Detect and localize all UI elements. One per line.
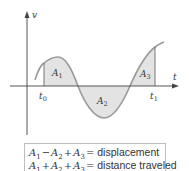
term-a3: A3 bbox=[73, 147, 85, 161]
t0-label: t0 bbox=[39, 91, 47, 103]
equals-sign: = bbox=[85, 160, 95, 171]
displacement-formula: A1 − A2 + A3 = displacement bbox=[29, 146, 165, 159]
distance-formula: A1 + A2 + A3 = distance traveled bbox=[29, 159, 165, 171]
term-a1: A1 bbox=[29, 160, 41, 171]
t1-label: t1 bbox=[150, 91, 158, 103]
term-a2: A2 bbox=[51, 147, 63, 161]
operator: + bbox=[41, 160, 51, 171]
displacement-label: displacement bbox=[97, 146, 159, 158]
operator: − bbox=[41, 147, 51, 158]
formula-legend: A1 − A2 + A3 = displacement A1 + A2 + A3… bbox=[24, 143, 166, 171]
t-axis-arrow-icon bbox=[172, 84, 179, 89]
distance-traveled-label: distance traveled bbox=[97, 159, 176, 171]
term-a3: A3 bbox=[73, 160, 85, 171]
v-axis-arrow-icon bbox=[25, 11, 30, 18]
operator: + bbox=[63, 147, 73, 158]
v-axis-label: v bbox=[32, 10, 37, 20]
term-a2: A2 bbox=[51, 160, 63, 171]
area-a3 bbox=[130, 47, 155, 86]
operator: + bbox=[63, 160, 73, 171]
term-a1: A1 bbox=[29, 147, 41, 161]
t-axis-label: t bbox=[173, 72, 177, 82]
equals-sign: = bbox=[85, 147, 95, 158]
